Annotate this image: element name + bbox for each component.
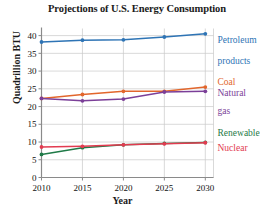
gridlines (42, 29, 214, 178)
svg-text:20: 20 (28, 102, 38, 112)
svg-text:40: 40 (28, 31, 38, 41)
line-chart-plot: 0510152025303540 20102015202020252030 Pe… (0, 0, 274, 214)
svg-text:gas: gas (218, 106, 231, 116)
svg-text:15: 15 (28, 119, 38, 129)
svg-text:2010: 2010 (33, 183, 52, 193)
axes (39, 28, 214, 181)
svg-text:Coal: Coal (218, 77, 236, 87)
svg-text:Nuclear: Nuclear (218, 143, 249, 153)
svg-text:Petroleum: Petroleum (218, 35, 258, 45)
svg-text:2015: 2015 (73, 183, 92, 193)
svg-text:25: 25 (28, 84, 38, 94)
svg-text:2030: 2030 (196, 183, 215, 193)
svg-text:products: products (218, 56, 251, 66)
svg-text:35: 35 (28, 49, 38, 59)
x-tick-labels: 20102015202020252030 (33, 183, 215, 193)
svg-text:30: 30 (28, 66, 38, 76)
y-tick-labels: 0510152025303540 (28, 31, 38, 183)
svg-text:2025: 2025 (155, 183, 174, 193)
chart-figure: Projections of U.S. Energy Consumption Q… (0, 0, 274, 214)
svg-text:5: 5 (32, 155, 37, 165)
svg-text:0: 0 (32, 173, 37, 183)
svg-text:Renewable: Renewable (218, 128, 260, 138)
svg-text:2020: 2020 (114, 183, 133, 193)
svg-text:10: 10 (28, 137, 38, 147)
series-labels: PetroleumproductsCoalNaturalgasRenewable… (218, 35, 260, 154)
svg-text:Natural: Natural (218, 88, 247, 98)
